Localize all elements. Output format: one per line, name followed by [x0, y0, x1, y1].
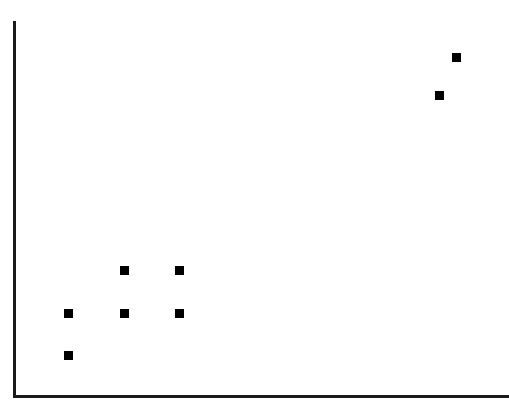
- plot-area: [0, 0, 509, 411]
- data-point-marker: [175, 266, 184, 275]
- data-point-marker: [435, 91, 444, 100]
- scatter-chart-figure: [0, 0, 509, 411]
- data-point-marker: [64, 351, 73, 360]
- data-point-marker: [452, 53, 461, 62]
- data-point-marker: [64, 309, 73, 318]
- y-axis-line: [13, 21, 16, 398]
- data-point-marker: [120, 266, 129, 275]
- x-axis-line: [13, 395, 509, 398]
- data-point-marker: [120, 309, 129, 318]
- data-point-marker: [175, 309, 184, 318]
